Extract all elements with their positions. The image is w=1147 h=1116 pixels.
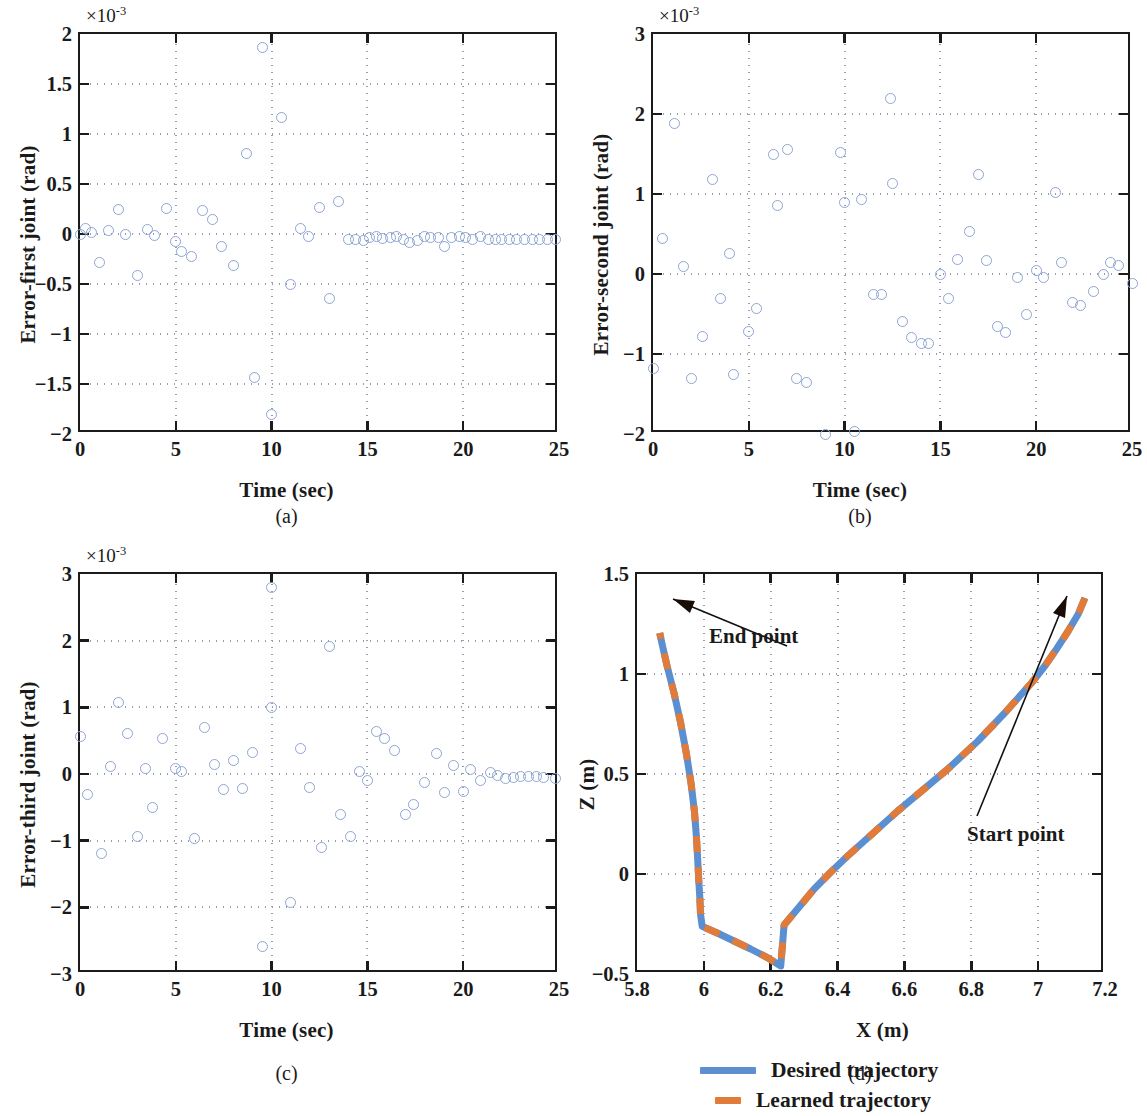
scatter-marker xyxy=(241,148,252,159)
axis-tick-y xyxy=(80,383,89,386)
axis-tick-y xyxy=(80,639,89,642)
scatter-marker xyxy=(686,373,697,384)
x-tick-label: 5 xyxy=(744,439,754,460)
scatter-marker xyxy=(1021,309,1032,320)
desired-trajectory-path xyxy=(660,598,1085,966)
scatter-marker xyxy=(285,897,296,908)
y-tick-label: 1 xyxy=(619,664,629,685)
axis-tick-x xyxy=(462,421,465,430)
scatter-marker xyxy=(113,697,124,708)
scatter-marker xyxy=(266,582,277,593)
panel-caption-c: (c) xyxy=(0,1063,573,1083)
axis-tick-x xyxy=(939,34,942,43)
axis-tick-x xyxy=(939,421,942,430)
scatter-marker xyxy=(345,831,356,842)
learned-trajectory-swatch xyxy=(715,1097,741,1104)
y-axis-exponent-a: ×10-3 xyxy=(86,4,126,27)
scatter-marker xyxy=(362,775,373,786)
scatter-marker xyxy=(839,197,850,208)
y-tick-label: −2 xyxy=(623,424,645,445)
panel-caption-a: (a) xyxy=(0,506,573,526)
scatter-marker xyxy=(389,745,400,756)
x-tick-label: 0 xyxy=(648,439,658,460)
scatter-marker xyxy=(697,331,708,342)
panel-d-trajectory: Z (m) −0.500.511.55.866.26.46.66.877.2 E… xyxy=(573,530,1147,1105)
x-tick-label: 15 xyxy=(930,439,951,460)
axis-tick-y xyxy=(1119,193,1128,196)
grid-layer-c xyxy=(80,574,555,970)
gridline-vertical xyxy=(175,34,177,430)
scatter-marker xyxy=(132,270,143,281)
x-tick-label: 10 xyxy=(261,979,282,1000)
x-tick-label: 6.4 xyxy=(825,979,851,1000)
axis-tick-y xyxy=(546,183,555,186)
axis-tick-x xyxy=(843,421,846,430)
axis-tick-y xyxy=(546,639,555,642)
learned-trajectory-path xyxy=(660,598,1085,966)
gridline-vertical xyxy=(462,574,464,970)
gridline-horizontal xyxy=(80,383,555,385)
axis-tick-y xyxy=(653,273,662,276)
gridline-vertical xyxy=(939,34,941,430)
x-tick-label: 15 xyxy=(357,979,378,1000)
axis-tick-y xyxy=(653,193,662,196)
axis-tick-y xyxy=(546,133,555,136)
scatter-marker xyxy=(1113,260,1124,271)
x-tick-label: 6.8 xyxy=(958,979,984,1000)
x-tick-label: 25 xyxy=(1122,439,1143,460)
y-tick-label: 1 xyxy=(635,184,645,205)
scatter-marker xyxy=(1056,257,1067,268)
scatter-marker xyxy=(103,225,114,236)
scatter-marker xyxy=(465,764,476,775)
x-axis-title-a: Time (sec) xyxy=(0,478,573,503)
scatter-marker xyxy=(335,809,346,820)
scatter-marker xyxy=(849,426,860,437)
axis-tick-y xyxy=(80,83,89,86)
axis-tick-x xyxy=(1035,34,1038,43)
scatter-marker xyxy=(285,279,296,290)
scatter-marker xyxy=(772,200,783,211)
scatter-marker xyxy=(105,761,116,772)
scatter-marker xyxy=(303,231,314,242)
panel-b-error-second-joint: ×10-3 Error-second joint (rad) −2−101230… xyxy=(573,0,1147,530)
scatter-marker xyxy=(170,236,181,247)
axis-tick-x xyxy=(270,421,273,430)
scatter-marker xyxy=(887,178,898,189)
axis-tick-y xyxy=(1119,273,1128,276)
scatter-marker xyxy=(648,363,659,374)
y-tick-label: 0.5 xyxy=(603,764,629,785)
y-tick-label: 3 xyxy=(62,564,72,585)
scatter-marker xyxy=(94,257,105,268)
gridline-horizontal xyxy=(653,353,1128,355)
gridline-vertical xyxy=(271,34,273,430)
scatter-marker xyxy=(147,802,158,813)
scatter-marker xyxy=(657,233,668,244)
scatter-marker xyxy=(120,229,131,240)
y-tick-label: 1 xyxy=(62,697,72,718)
scatter-marker xyxy=(324,641,335,652)
scatter-marker xyxy=(207,214,218,225)
x-tick-label: 10 xyxy=(261,439,282,460)
scatter-marker xyxy=(75,731,86,742)
gridline-vertical xyxy=(366,574,368,970)
start-point-annotation: Start point xyxy=(967,824,1064,845)
axis-tick-y xyxy=(80,283,89,286)
x-axis-title-b: Time (sec) xyxy=(573,478,1147,503)
y-tick-label: 2 xyxy=(62,630,72,651)
scatter-marker xyxy=(132,831,143,842)
gridline-horizontal xyxy=(80,183,555,185)
axis-tick-x xyxy=(175,421,178,430)
scatter-marker xyxy=(1000,327,1011,338)
gridline-horizontal xyxy=(653,273,1128,275)
scatter-marker xyxy=(249,372,260,383)
scatter-marker xyxy=(161,203,172,214)
scatter-marker xyxy=(96,848,107,859)
scatter-marker xyxy=(257,42,268,53)
x-axis-title-d: X (m) xyxy=(635,1018,1130,1043)
scatter-marker xyxy=(247,747,258,758)
axis-tick-x xyxy=(270,34,273,43)
x-tick-label: 25 xyxy=(549,439,570,460)
axis-tick-y xyxy=(546,383,555,386)
axis-tick-x xyxy=(1035,421,1038,430)
